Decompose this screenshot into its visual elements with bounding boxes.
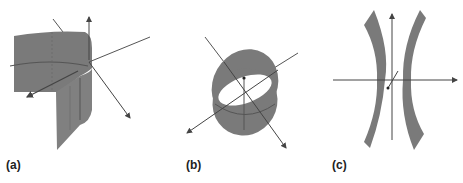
hyperbolic-cylinder-diagram: [310, 0, 463, 183]
panel-a: (a): [0, 0, 160, 183]
panel-label-c: (c): [332, 158, 347, 172]
panel-label-a: (a): [6, 158, 21, 172]
panel-label-b: (b): [186, 158, 201, 172]
cylinder-section-diagram: [0, 0, 160, 183]
panel-b: (b): [160, 0, 310, 183]
panel-c: (c): [310, 0, 463, 183]
elliptic-cylinder-diagram: [160, 0, 310, 183]
